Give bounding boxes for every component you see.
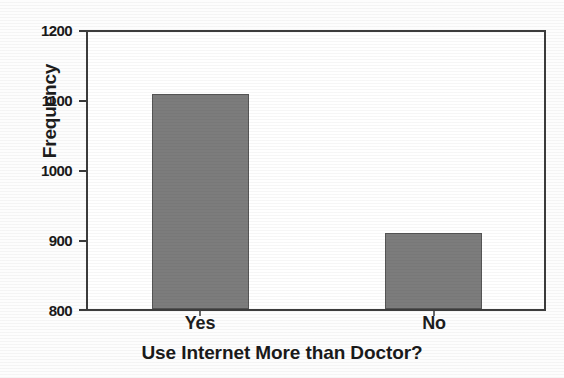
y-axis-tick-labels: 1200 1100 1000 900 800 [10,0,72,378]
y-tick-mark-1000 [79,170,86,172]
plot-inner [88,32,544,309]
x-tick-label-yes: Yes [120,313,280,334]
y-tick-mark-1200 [79,30,86,32]
bar-chart-figure: Frequency 1200 1100 1000 900 800 Yes No … [0,0,564,378]
y-tick-label-1100: 1100 [18,93,72,108]
x-tick-label-no: No [354,313,514,334]
bar-yes [152,94,249,309]
y-tick-mark-900 [79,240,86,242]
y-tick-mark-800 [79,309,86,311]
y-tick-label-1000: 1000 [18,163,72,178]
bar-no [385,233,482,309]
y-tick-label-800: 800 [18,303,72,318]
plot-area [86,30,546,311]
y-tick-mark-1100 [79,100,86,102]
x-axis-title: Use Internet More than Doctor? [0,342,564,364]
y-tick-label-1200: 1200 [18,23,72,38]
y-tick-label-900: 900 [18,233,72,248]
